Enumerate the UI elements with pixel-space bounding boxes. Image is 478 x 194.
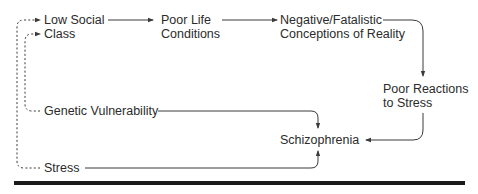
- edge-genetic-to-class-dashed: [25, 34, 40, 111]
- node-negative-conceptions-line2: Conceptions of Reality: [280, 27, 405, 41]
- node-poor-life-conditions-line1: Poor Life: [161, 13, 220, 27]
- node-poor-life-conditions: Poor Life Conditions: [161, 13, 220, 41]
- node-low-social-class: Low Social Class: [44, 13, 104, 41]
- node-stress: Stress: [44, 161, 79, 175]
- node-poor-reactions-line1: Poor Reactions: [383, 82, 468, 96]
- node-genetic-vulnerability-label: Genetic Vulnerability: [44, 104, 158, 118]
- node-poor-reactions-line2: to Stress: [383, 96, 468, 110]
- node-negative-conceptions-line1: Negative/Fatalistic: [280, 13, 405, 27]
- edge-stress-to-schizophrenia: [85, 151, 318, 168]
- node-poor-reactions: Poor Reactions to Stress: [383, 82, 468, 110]
- node-stress-label: Stress: [44, 161, 79, 175]
- node-low-social-class-line2: Class: [44, 27, 104, 41]
- node-schizophrenia: Schizophrenia: [280, 133, 359, 147]
- node-poor-life-conditions-line2: Conditions: [161, 27, 220, 41]
- edge-reactions-to-schizophrenia: [366, 113, 423, 140]
- node-low-social-class-line1: Low Social: [44, 13, 104, 27]
- node-negative-conceptions: Negative/Fatalistic Conceptions of Reali…: [280, 13, 405, 41]
- bottom-rule-divider: [14, 181, 465, 185]
- edge-genetic-to-schizophrenia: [158, 111, 318, 128]
- node-genetic-vulnerability: Genetic Vulnerability: [44, 104, 158, 118]
- edge-stress-to-class-dashed: [17, 20, 40, 168]
- node-schizophrenia-label: Schizophrenia: [280, 133, 359, 147]
